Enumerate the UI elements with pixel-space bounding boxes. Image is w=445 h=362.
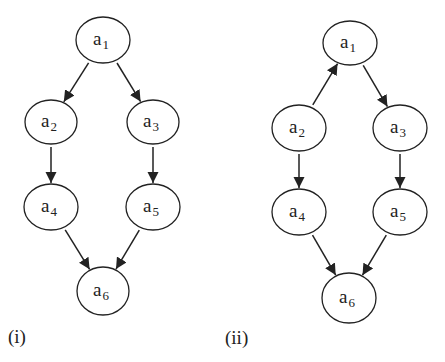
node-label-subscript: 4: [50, 204, 57, 219]
node-label-base: a: [143, 195, 152, 216]
edge-a2-to-a1: [313, 64, 338, 105]
node-a6: a6: [322, 273, 376, 323]
node-a1: a1: [76, 17, 130, 63]
panel-label-ii: (ii): [225, 328, 248, 347]
node-label-subscript: 2: [298, 125, 305, 140]
node-a4: a4: [272, 189, 326, 235]
node-a4: a4: [24, 184, 78, 230]
node-label-base: a: [41, 110, 50, 131]
node-a1: a1: [323, 21, 377, 65]
node-label-subscript: 5: [152, 204, 159, 219]
graph-panel-ii: a1a2a3a4a5a6: [272, 21, 427, 323]
node-a6: a6: [77, 267, 129, 315]
node-a3: a3: [373, 105, 427, 151]
node-label-subscript: 1: [349, 40, 356, 55]
node-label-base: a: [289, 116, 298, 137]
node-label-subscript: 5: [399, 209, 406, 224]
edge-a1-to-a3: [117, 63, 141, 102]
node-a3: a3: [127, 100, 179, 144]
edge-a4-to-a6: [313, 235, 336, 275]
directed-graph-diagram: a1a2a3a4a5a6 a1a2a3a4a5a6: [0, 0, 445, 362]
node-a2: a2: [272, 105, 326, 151]
node-label-base: a: [340, 31, 349, 52]
node-label-subscript: 6: [348, 295, 355, 310]
node-label-base: a: [339, 286, 348, 307]
node-label-base: a: [93, 279, 102, 300]
edge-a1-to-a3: [363, 65, 387, 106]
edge-a1-to-a2: [64, 63, 89, 102]
edge-a5-to-a6: [116, 230, 139, 269]
node-label-subscript: 2: [50, 119, 57, 134]
node-label-subscript: 4: [298, 209, 305, 224]
graph-panel-i: a1a2a3a4a5a6: [24, 17, 180, 315]
node-a2: a2: [25, 100, 77, 144]
node-label-base: a: [93, 28, 102, 49]
edge-a4-to-a6: [65, 230, 89, 269]
node-label-subscript: 3: [399, 125, 406, 140]
node-label-base: a: [390, 116, 399, 137]
node-label-subscript: 6: [102, 288, 109, 303]
node-label-base: a: [143, 110, 152, 131]
node-a5: a5: [373, 189, 427, 235]
node-label-base: a: [390, 200, 399, 221]
edge-a5-to-a6: [363, 235, 387, 275]
node-label-base: a: [41, 195, 50, 216]
node-label-base: a: [289, 200, 298, 221]
node-label-subscript: 3: [152, 119, 159, 134]
node-label-subscript: 1: [102, 37, 109, 52]
panel-label-i: (i): [8, 327, 26, 346]
node-a5: a5: [126, 184, 180, 230]
